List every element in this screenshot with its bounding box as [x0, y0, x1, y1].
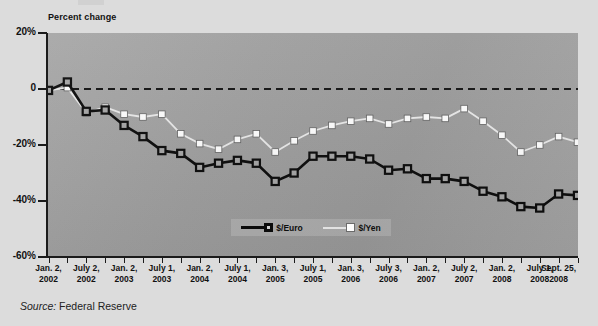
x-axis-tick — [105, 258, 106, 263]
x-axis-label: Jan. 2,2007 — [413, 263, 439, 284]
y-axis-tick — [38, 144, 47, 146]
x-axis-tick — [370, 258, 371, 263]
series-yen-line — [49, 88, 578, 152]
x-axis-label-line2: 2006 — [375, 274, 401, 285]
x-axis-label-line1: Jan. 2, — [111, 263, 137, 274]
x-axis-tick — [407, 258, 408, 263]
series-yen-point — [423, 114, 430, 121]
x-axis-label: Jan. 2,2004 — [186, 263, 212, 284]
x-axis-label-line1: July 1, — [224, 263, 250, 274]
series-yen — [48, 84, 578, 155]
series-yen-point — [385, 121, 392, 128]
series-yen-point — [555, 133, 562, 140]
x-axis-label-line1: July 3, — [375, 263, 401, 274]
series-yen-point — [329, 122, 336, 129]
series-euro-point — [385, 167, 392, 174]
x-axis-label-line1: Jan. 2, — [489, 263, 515, 274]
x-axis-label-line2: 2003 — [111, 274, 137, 285]
series-euro — [48, 78, 578, 211]
x-axis-label-line2: 2002 — [73, 274, 99, 285]
series-euro-point — [442, 175, 449, 182]
y-axis-tick — [38, 32, 47, 34]
legend-marker-yen-icon — [346, 223, 355, 232]
series-yen-point — [140, 114, 147, 121]
series-euro-point — [215, 160, 222, 167]
x-axis-label: Jan. 3,2005 — [262, 263, 288, 284]
legend-marker-euro-icon — [264, 223, 273, 232]
x-axis-tick — [294, 258, 295, 263]
figure-page: Percent change Changes in U.S. Dollar Va… — [0, 0, 598, 326]
series-euro-point — [498, 193, 505, 200]
series-yen-point — [499, 132, 506, 139]
x-axis-label-line1: Sept. 25, — [541, 263, 576, 274]
y-axis-tick — [38, 88, 47, 90]
x-axis-tick — [578, 258, 579, 263]
source-prefix: Source: — [20, 300, 56, 312]
x-axis-label: Sept. 25,2008 — [541, 263, 576, 284]
x-axis-label-line2: 2002 — [35, 274, 61, 285]
x-axis-label-line1: Jan. 3, — [338, 263, 364, 274]
series-yen-point — [480, 118, 487, 125]
series-euro-point — [536, 204, 543, 211]
x-axis-line — [46, 256, 578, 258]
source-value: Federal Reserve — [59, 300, 137, 312]
x-axis-label-line1: July 2, — [73, 263, 99, 274]
series-euro-point — [347, 153, 354, 160]
series-euro-point — [120, 122, 127, 129]
legend-item-euro[interactable]: $/Euro — [241, 223, 302, 233]
series-yen-point — [272, 149, 279, 156]
x-axis-label-line2: 2005 — [262, 274, 288, 285]
series-yen-point — [177, 131, 184, 138]
x-axis-label-line2: 2005 — [300, 274, 326, 285]
y-axis-label: -60% — [13, 250, 36, 261]
series-yen-point — [159, 111, 166, 118]
series-yen-point — [404, 115, 411, 122]
series-euro-point — [64, 78, 71, 85]
x-axis-label-line2: 2006 — [338, 274, 364, 285]
series-yen-point — [234, 136, 241, 143]
series-euro-point — [272, 178, 279, 185]
y-axis-label: -20% — [13, 138, 36, 149]
x-axis-label-line2: 2008 — [541, 274, 576, 285]
x-axis-label-line1: July 1, — [149, 263, 175, 274]
series-euro-point — [291, 169, 298, 176]
x-axis-label: Jan. 2,2003 — [111, 263, 137, 284]
series-yen-point — [366, 115, 373, 122]
x-axis-tick — [483, 258, 484, 263]
series-euro-point — [479, 188, 486, 195]
series-yen-point — [347, 118, 354, 125]
series-yen-point — [121, 111, 128, 118]
x-axis-label: July 1,2003 — [149, 263, 175, 284]
series-euro-point — [102, 106, 109, 113]
series-yen-point — [518, 149, 525, 156]
x-axis-tick — [67, 258, 68, 263]
x-axis-label-line2: 2003 — [149, 274, 175, 285]
x-axis-label: July 3,2006 — [375, 263, 401, 284]
y-axis-tick — [38, 200, 47, 202]
series-yen-point — [215, 146, 222, 153]
y-axis-tick — [38, 256, 47, 258]
series-euro-point — [83, 108, 90, 115]
y-axis-label: 20% — [16, 26, 36, 37]
series-euro-point — [253, 160, 260, 167]
x-axis-label-line1: Jan. 2, — [35, 263, 61, 274]
series-yen-point — [291, 138, 298, 145]
series-euro-point — [366, 155, 373, 162]
series-yen-point — [310, 128, 317, 135]
x-axis-tick — [219, 258, 220, 263]
y-axis-label: 0 — [30, 82, 36, 93]
series-euro-point — [158, 147, 165, 154]
x-axis-tick — [256, 258, 257, 263]
series-euro-point — [555, 190, 562, 197]
source-note: Source: Federal Reserve — [20, 300, 137, 312]
x-axis-label-line1: Jan. 2, — [186, 263, 212, 274]
series-euro-point — [139, 133, 146, 140]
x-axis-label: Jan. 2,2008 — [489, 263, 515, 284]
x-axis-label: July 2,2007 — [451, 263, 477, 284]
series-euro-point — [574, 192, 578, 199]
x-axis-label: Jan. 2,2002 — [35, 263, 61, 284]
series-euro-point — [328, 153, 335, 160]
series-yen-point — [461, 105, 468, 112]
legend-item-yen[interactable]: $/Yen — [323, 223, 380, 233]
legend-label-yen: $/Yen — [358, 223, 380, 233]
